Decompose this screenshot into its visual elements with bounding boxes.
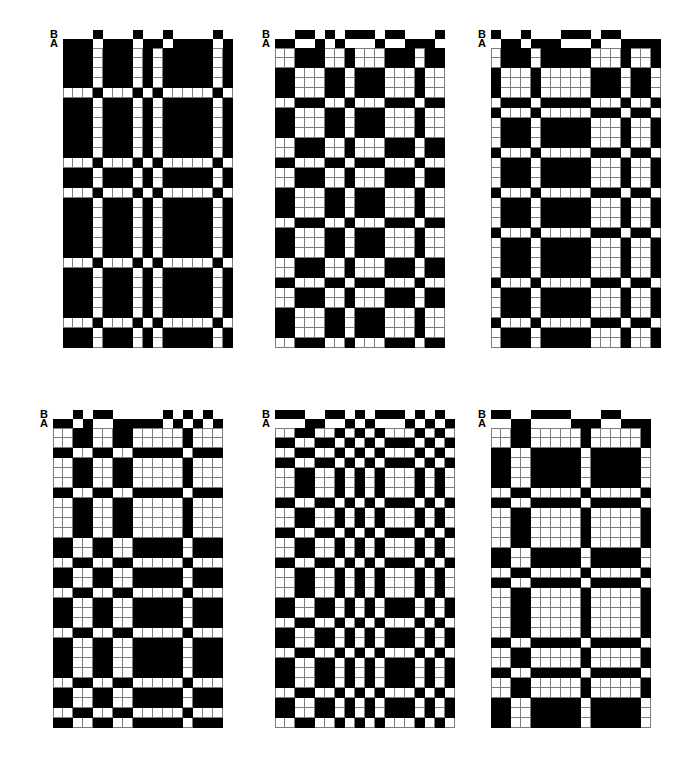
drawdown-cell	[325, 478, 335, 488]
drawdown-cell	[305, 118, 315, 128]
shaft-cell	[511, 30, 521, 39]
drawdown-cell	[445, 688, 455, 698]
drawdown-cell	[203, 698, 213, 708]
drawdown-cell	[335, 458, 345, 468]
drawdown-cell	[203, 558, 213, 568]
shaft-cell	[53, 419, 63, 428]
drawdown-cell	[163, 658, 173, 668]
drawdown-cell	[63, 618, 73, 628]
drawdown-cell	[405, 708, 415, 718]
drawdown-cell	[375, 718, 385, 728]
drawdown-cell	[611, 588, 621, 598]
drawdown-cell	[501, 158, 511, 168]
drawdown-cell	[133, 258, 143, 268]
drawdown-cell	[435, 678, 445, 688]
drawdown-cell	[335, 218, 345, 228]
drawdown-cell	[355, 618, 365, 628]
drawdown-cell	[631, 78, 641, 88]
drawdown-cell	[163, 98, 173, 108]
drawdown-cell	[395, 648, 405, 658]
drawdown-cell	[63, 478, 73, 488]
drawdown-cell	[153, 288, 163, 298]
shaft-cell	[193, 410, 203, 419]
drawdown-cell	[491, 688, 501, 698]
drawdown-cell	[143, 228, 153, 238]
drawdown-cell	[113, 268, 123, 278]
drawdown-cell	[305, 678, 315, 688]
drawdown-cell	[511, 698, 521, 708]
drawdown-cell	[143, 658, 153, 668]
drawdown-cell	[163, 228, 173, 238]
drawdown-cell	[651, 288, 661, 298]
drawdown-cell	[375, 508, 385, 518]
drawdown-cell	[193, 628, 203, 638]
drawdown-cell	[133, 268, 143, 278]
drawdown-cell	[83, 98, 93, 108]
drawdown-cell	[531, 528, 541, 538]
drawdown-cell	[345, 118, 355, 128]
drawdown-cell	[213, 298, 223, 308]
drawdown-row	[275, 488, 455, 498]
drawdown-cell	[611, 558, 621, 568]
drawdown-cell	[133, 468, 143, 478]
drawdown-cell	[355, 658, 365, 668]
shaft-cell	[395, 410, 405, 419]
shaft-cell	[133, 39, 143, 48]
drawdown-cell	[511, 478, 521, 488]
drawdown-cell	[355, 338, 365, 348]
drawdown-cell	[173, 108, 183, 118]
drawdown-row	[63, 318, 233, 328]
drawdown-row	[63, 278, 233, 288]
drawdown-cell	[511, 158, 521, 168]
drawdown-cell	[541, 528, 551, 538]
drawdown-cell	[173, 618, 183, 628]
drawdown-cell	[611, 338, 621, 348]
drawdown-row	[275, 688, 455, 698]
drawdown-cell	[561, 708, 571, 718]
drawdown-cell	[551, 58, 561, 68]
drawdown-cell	[611, 518, 621, 528]
drawdown-cell	[295, 428, 305, 438]
drawdown-cell	[223, 58, 233, 68]
drawdown-cell	[405, 118, 415, 128]
shaft-cell	[631, 419, 641, 428]
drawdown-cell	[601, 708, 611, 718]
drawdown-cell	[415, 218, 425, 228]
drawdown-cell	[153, 688, 163, 698]
drawdown-cell	[203, 258, 213, 268]
drawdown-cell	[531, 628, 541, 638]
drawdown-row	[63, 248, 233, 258]
drawdown-cell	[133, 678, 143, 688]
drawdown-cell	[123, 338, 133, 348]
drawdown-cell	[123, 98, 133, 108]
drawdown-cell	[405, 338, 415, 348]
drawdown-cell	[183, 58, 193, 68]
shaft-cell	[93, 419, 103, 428]
drawdown-cell	[651, 208, 661, 218]
drawdown-cell	[143, 68, 153, 78]
shaft-cell	[103, 419, 113, 428]
drawdown-cell	[571, 198, 581, 208]
drawdown-cell	[415, 498, 425, 508]
drawdown-cell	[143, 308, 153, 318]
shaft-cell	[173, 30, 183, 39]
drawdown-cell	[591, 658, 601, 668]
drawdown-cell	[641, 568, 651, 578]
drawdown-cell	[315, 458, 325, 468]
drawdown-cell	[113, 298, 123, 308]
drawdown-cell	[295, 528, 305, 538]
drawdown-cell	[511, 128, 521, 138]
drawdown-cell	[315, 78, 325, 88]
drawdown-row	[491, 78, 661, 88]
drawdown-cell	[511, 138, 521, 148]
drawdown-cell	[621, 138, 631, 148]
drawdown-cell	[601, 288, 611, 298]
drawdown-cell	[621, 678, 631, 688]
drawdown-cell	[325, 148, 335, 158]
drawdown-cell	[631, 148, 641, 158]
drawdown-cell	[143, 618, 153, 628]
drawdown-cell	[123, 508, 133, 518]
drawdown-row	[491, 278, 661, 288]
drawdown-cell	[531, 678, 541, 688]
drawdown-cell	[345, 658, 355, 668]
